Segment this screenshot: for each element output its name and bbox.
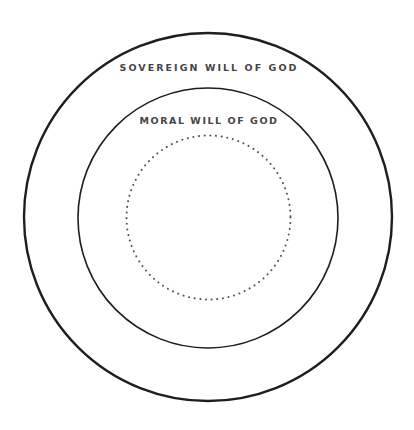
inner-dotted-circle xyxy=(127,136,291,300)
moral-will-circle xyxy=(78,88,338,348)
sovereign-will-label: SOVEREIGN WILL OF GOD xyxy=(0,62,414,73)
moral-will-label: MORAL WILL OF GOD xyxy=(0,115,414,126)
